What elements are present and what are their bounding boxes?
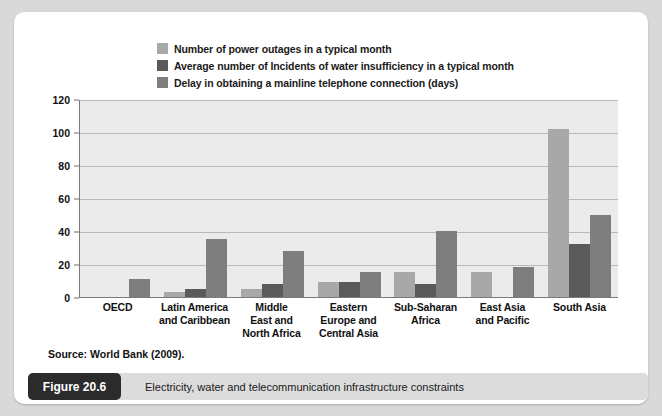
bar-series-2 [513, 267, 534, 297]
x-axis: OECDLatin Americaand CaribbeanMiddleEast… [79, 301, 618, 340]
source-note: Source: World Bank (2009). [48, 348, 184, 360]
bar-series-2 [206, 239, 227, 297]
x-tick-label: East Asiaand Pacific [464, 301, 541, 340]
bar-series-2 [360, 272, 381, 297]
legend-swatch-telephone-delay [157, 77, 168, 88]
bar-group [541, 100, 618, 297]
bar-group [157, 100, 234, 297]
y-tick-label: 40 [58, 226, 70, 238]
bar-series-2 [283, 251, 304, 297]
bar-series-2 [129, 279, 150, 297]
bar-group [234, 100, 311, 297]
bar-group [464, 100, 541, 297]
y-tick-label: 0 [64, 292, 70, 304]
x-tick-label: South Asia [541, 301, 618, 340]
bar-series-2 [590, 215, 611, 298]
bar-series-1 [185, 289, 206, 297]
legend-swatch-water-insufficiency [157, 60, 168, 71]
bar-series-0 [164, 292, 185, 297]
chart-legend: Number of power outages in a typical mon… [157, 41, 514, 90]
x-tick-label: OECD [79, 301, 156, 340]
legend-label-water-insufficiency: Average number of Incidents of water ins… [174, 60, 514, 72]
bar-group [311, 100, 388, 297]
bar-series-1 [415, 284, 436, 297]
y-tick-label: 120 [52, 94, 70, 106]
legend-label-telephone-delay: Delay in obtaining a mainline telephone … [174, 77, 458, 89]
x-tick-label: Latin Americaand Caribbean [156, 301, 233, 340]
bar-series-0 [548, 129, 569, 297]
bar-series-0 [241, 289, 262, 297]
bar-series-2 [436, 231, 457, 297]
x-tick-label: Sub-SaharanAfrica [387, 301, 464, 340]
figure-caption-bar: Figure 20.6 Electricity, water and telec… [28, 373, 648, 400]
y-tick-label: 80 [58, 160, 70, 172]
bar-group [387, 100, 464, 297]
bar-series-0 [394, 272, 415, 297]
x-tick-label: EasternEurope andCentral Asia [310, 301, 387, 340]
figure-card: Number of power outages in a typical mon… [14, 12, 648, 404]
y-tick-label: 60 [58, 193, 70, 205]
figure-caption-text: Electricity, water and telecommunication… [145, 381, 464, 393]
plot-area [79, 100, 618, 298]
y-axis: 020406080100120 [40, 100, 74, 298]
y-tick-label: 20 [58, 259, 70, 271]
bar-series-1 [262, 284, 283, 297]
bar-series-1 [569, 244, 590, 297]
legend-item-water-insufficiency: Average number of Incidents of water ins… [157, 58, 514, 73]
x-tick-label: MiddleEast andNorth Africa [233, 301, 310, 340]
bar-series-0 [318, 282, 339, 297]
bar-group [80, 100, 157, 297]
legend-item-power-outages: Number of power outages in a typical mon… [157, 41, 514, 56]
bar-series-1 [339, 282, 360, 297]
bars-layer [80, 100, 618, 297]
y-tick-label: 100 [52, 127, 70, 139]
bar-chart: 020406080100120 [40, 100, 618, 298]
legend-swatch-power-outages [157, 43, 168, 54]
figure-number-badge: Figure 20.6 [28, 373, 121, 400]
legend-item-telephone-delay: Delay in obtaining a mainline telephone … [157, 75, 514, 90]
bar-series-0 [471, 272, 492, 297]
legend-label-power-outages: Number of power outages in a typical mon… [174, 43, 392, 55]
